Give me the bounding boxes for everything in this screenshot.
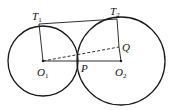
- segment-t2-q: [117, 19, 119, 47]
- point-o1: [42, 60, 44, 62]
- point-o2: [120, 60, 122, 62]
- label-p: P: [80, 62, 88, 74]
- segment-o1-q-dashed: [43, 47, 119, 61]
- label-t1: T1: [32, 10, 42, 24]
- segment-t1-t2: [39, 19, 117, 24]
- label-o1: O1: [37, 66, 49, 80]
- segment-t1-o1: [39, 24, 43, 61]
- label-t2: T2: [110, 5, 120, 19]
- label-q: Q: [122, 41, 130, 53]
- label-o2: O2: [115, 66, 127, 80]
- segment-q-o2: [119, 47, 121, 61]
- geometry-diagram: T1 T2 Q O1 P O2: [0, 0, 171, 110]
